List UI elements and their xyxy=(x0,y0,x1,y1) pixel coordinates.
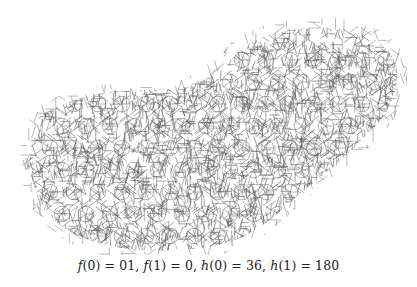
tiling-drawing xyxy=(0,0,417,255)
caption-term: h(0) = 36, xyxy=(201,258,270,273)
caption-term: f(1) = 0, xyxy=(143,258,201,273)
caption-term: f(0) = 01, xyxy=(78,258,144,273)
tiling-figure xyxy=(0,0,417,255)
caption-text: f(0) = 01, f(1) = 0, h(0) = 36, h(1) = 1… xyxy=(78,258,340,273)
figure-caption: f(0) = 01, f(1) = 0, h(0) = 36, h(1) = 1… xyxy=(0,258,417,273)
caption-term: h(1) = 180 xyxy=(270,258,339,273)
